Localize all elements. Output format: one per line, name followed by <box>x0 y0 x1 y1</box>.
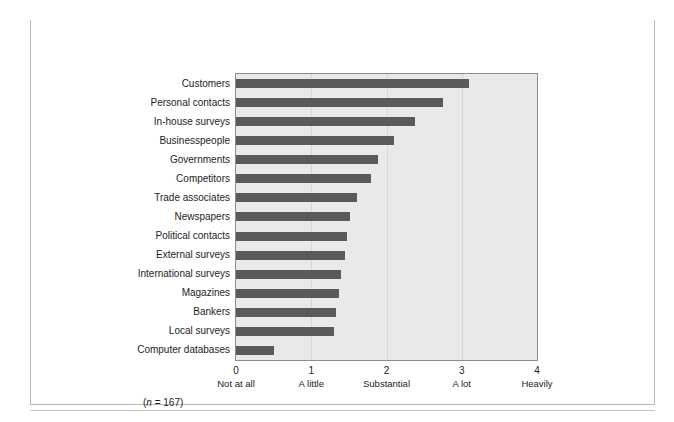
bar-row: Governments <box>236 150 537 169</box>
bar <box>236 232 347 241</box>
category-label: Customers <box>182 79 230 89</box>
category-label: International surveys <box>138 269 230 279</box>
category-label: Local surveys <box>169 326 230 336</box>
bar-row: Businesspeople <box>236 131 537 150</box>
bar-row: Political contacts <box>236 227 537 246</box>
bar-row: International surveys <box>236 265 537 284</box>
bar-row: Newspapers <box>236 207 537 226</box>
x-axis: 0Not at all1A little2Substantial3A lot4H… <box>235 365 538 395</box>
bar-row: Computer databases <box>236 341 537 360</box>
bar <box>236 79 469 88</box>
category-label: Governments <box>170 155 230 165</box>
x-axis-tick: 1A little <box>299 365 324 390</box>
x-axis-tick: 0Not at all <box>217 365 255 390</box>
category-label: Trade associates <box>154 193 230 203</box>
bar <box>236 251 345 260</box>
category-label: In-house surveys <box>154 117 230 127</box>
bar-row: Magazines <box>236 284 537 303</box>
bar <box>236 346 274 355</box>
x-axis-tick-value: 2 <box>363 365 410 377</box>
category-label: Magazines <box>182 288 230 298</box>
x-axis-tick-description: Not at all <box>217 378 255 390</box>
bar <box>236 270 341 279</box>
bar-row: Trade associates <box>236 188 537 207</box>
bar <box>236 193 357 202</box>
bar <box>236 308 336 317</box>
bar <box>236 98 443 107</box>
bar <box>236 174 371 183</box>
sample-size-note: (n = 167) <box>143 397 183 408</box>
category-label: Computer databases <box>137 345 230 355</box>
bar-row: Competitors <box>236 169 537 188</box>
category-label: Political contacts <box>156 231 230 241</box>
bar <box>236 327 334 336</box>
bar <box>236 155 378 164</box>
x-axis-tick: 2Substantial <box>363 365 410 390</box>
footer-divider <box>30 410 655 411</box>
x-axis-tick-value: 1 <box>299 365 324 377</box>
figure-container: CustomersPersonal contactsIn-house surve… <box>30 20 655 405</box>
category-label: Competitors <box>176 174 230 184</box>
bar <box>236 289 339 298</box>
x-axis-tick-value: 3 <box>453 365 472 377</box>
plot-frame: CustomersPersonal contactsIn-house surve… <box>235 73 538 361</box>
bar <box>236 117 415 126</box>
x-axis-tick: 3A lot <box>453 365 472 390</box>
x-axis-tick-description: Substantial <box>363 378 410 390</box>
chart-area: CustomersPersonal contactsIn-house surve… <box>31 39 656 405</box>
bar-row: In-house surveys <box>236 112 537 131</box>
sample-note-value: = 167) <box>152 397 183 408</box>
category-label: Personal contacts <box>151 98 231 108</box>
category-label: External surveys <box>156 250 230 260</box>
x-axis-tick-description: A little <box>299 378 324 390</box>
bar <box>236 212 350 221</box>
x-axis-tick-description: A lot <box>453 378 472 390</box>
x-axis-tick-value: 4 <box>521 365 552 377</box>
category-label: Businesspeople <box>159 136 230 146</box>
bar-row: Bankers <box>236 303 537 322</box>
bar-row: Personal contacts <box>236 93 537 112</box>
bar <box>236 136 394 145</box>
bar-row: Local surveys <box>236 322 537 341</box>
x-axis-tick: 4Heavily <box>521 365 552 390</box>
category-label: Bankers <box>193 307 230 317</box>
bar-row: External surveys <box>236 246 537 265</box>
footer-faint-text <box>30 413 655 421</box>
x-axis-tick-description: Heavily <box>521 378 552 390</box>
bar-row: Customers <box>236 74 537 93</box>
x-axis-tick-value: 0 <box>217 365 255 377</box>
category-label: Newspapers <box>174 212 230 222</box>
